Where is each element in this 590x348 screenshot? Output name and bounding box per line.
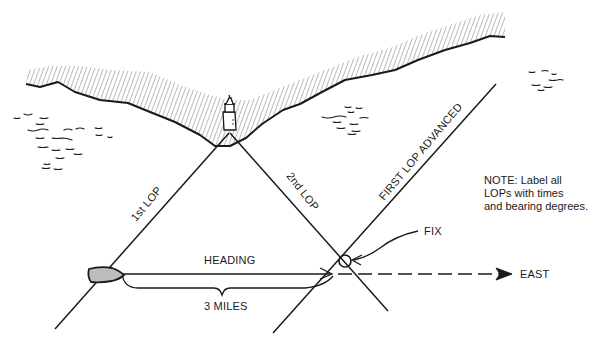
note-line-3: and bearing degrees.	[484, 200, 588, 212]
fix-pointer-arrowhead	[352, 255, 362, 265]
fix-label: FIX	[424, 225, 442, 237]
note-block: NOTE: Label all LOPs with times and bear…	[484, 174, 588, 212]
fix-pointer	[354, 231, 418, 260]
boat-icon	[88, 267, 124, 282]
water-ripples-middle	[322, 107, 368, 135]
water-ripples-right	[529, 71, 563, 91]
second-lop-line	[230, 133, 388, 311]
fix-symbol	[339, 255, 351, 267]
running-fix-diagram: 1st LOP 2nd LOP FIRST LOP ADVANCED HEADI…	[0, 0, 590, 348]
first-lop-advanced-line	[273, 84, 496, 333]
distance-label: 3 MILES	[204, 300, 248, 312]
distance-brace	[122, 274, 333, 295]
note-line-2: LOPs with times	[484, 187, 564, 199]
first-lop-line	[55, 133, 229, 329]
note-line-1: NOTE: Label all	[484, 174, 562, 186]
first-lop-label: 1st LOP	[128, 184, 164, 223]
heading-label: HEADING	[204, 254, 256, 266]
second-lop-label: 2nd LOP	[284, 170, 321, 213]
east-label: EAST	[520, 268, 550, 280]
water-ripples-left	[14, 114, 112, 170]
first-lop-advanced-label: FIRST LOP ADVANCED	[376, 100, 464, 202]
